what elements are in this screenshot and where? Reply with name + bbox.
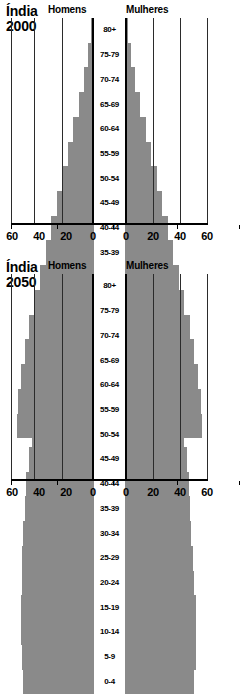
age-label: 65-69 [94,348,125,373]
x-tick-label: 40 [33,230,45,242]
male-bars-2000 [11,18,94,223]
age-label: 75-79 [94,299,125,324]
bar-female-25-29 [125,546,193,571]
bar-row [11,373,94,398]
x-tick-label: 20 [147,230,159,242]
age-label: 45-49 [94,191,125,216]
x-tick-label: 60 [6,230,18,242]
bar-male-15-19 [21,595,94,620]
gridline-male-40 [34,274,35,479]
axis-tick [11,481,12,485]
x-tick-label: 40 [174,230,186,242]
age-label: 80+ [94,274,125,299]
bar-male-0-4 [23,670,94,694]
x-tick-label: 20 [147,486,159,498]
female-half-2050 [125,274,208,479]
age-label: 10-14 [94,620,125,645]
bar-male-55-59 [68,142,94,167]
age-label: 80+ [94,18,125,43]
bar-row [11,43,94,68]
age-label: 0-4 [94,670,125,694]
bar-male-80plus [66,274,94,299]
bar-row [11,348,94,373]
bar-row [11,670,94,694]
bar-row [125,142,208,167]
age-label: 60-64 [94,373,125,398]
male-bars-2050 [11,274,94,479]
bar-row [11,166,94,191]
bar-row [11,447,94,472]
bar-male-30-34 [23,521,94,546]
bar-row [125,299,208,324]
female-series-label: Mulheres [126,4,168,15]
bar-row [125,43,208,68]
x-axis-labels-2000: 60 40 20 0 0 20 40 60 [0,230,219,246]
age-label: 70-74 [94,323,125,348]
bar-female-5-9 [125,645,196,670]
bar-male-65-69 [48,348,94,373]
bar-row [11,521,94,546]
bar-row [125,117,208,142]
bar-row [125,645,208,670]
bar-row [125,323,208,348]
age-label: 5-9 [94,645,125,670]
age-label: 70-74 [94,67,125,92]
bar-male-60-64 [41,373,94,398]
bar-male-55-59 [36,398,94,423]
bar-row [125,670,208,694]
x-axis-2000 [11,223,208,225]
bar-female-60-64 [125,373,178,398]
x-axis-labels-2050: 60 40 20 0 0 20 40 60 [0,486,219,502]
bar-row [11,398,94,423]
bar-female-80plus [125,274,162,299]
female-bars-2000 [125,18,208,223]
gridline-female-60 [207,274,208,479]
x-tick-label: 0 [123,486,129,498]
bar-female-60-64 [125,117,146,142]
bar-female-0-4 [125,670,194,694]
bar-row [11,117,94,142]
x-tick-label: 40 [174,486,186,498]
gridline-male-60 [11,18,12,223]
gridline-female-40 [180,274,181,479]
population-pyramid-2000: Índia 2000 Homens Mulheres [0,0,219,256]
x-tick-label: 0 [123,230,129,242]
bar-row [11,299,94,324]
bar-male-50-54 [62,166,94,191]
male-series-label: Homens [48,260,86,271]
gridline-male-20 [62,18,63,223]
bar-row [125,620,208,645]
bar-row [11,620,94,645]
bar-row [125,373,208,398]
bar-female-30-34 [125,521,191,546]
bar-row [11,645,94,670]
bar-row [125,274,208,299]
age-label: 15-19 [94,595,125,620]
bar-male-20-24 [22,571,94,596]
age-label: 65-69 [94,92,125,117]
bar-row [125,571,208,596]
age-label: 75-79 [94,43,125,68]
axis-tick [57,481,58,485]
bar-row [125,521,208,546]
bar-female-45-49 [125,191,162,216]
bar-row [125,67,208,92]
bar-male-70-74 [54,323,94,348]
bar-row [11,18,94,43]
plot-area-2050: 80+ 75-79 70-74 65-69 60-64 55-59 50-54 … [0,274,219,479]
axis-tick [177,481,178,485]
bar-male-75-79 [59,299,94,324]
age-label: 30-34 [94,521,125,546]
bar-female-65-69 [125,92,140,117]
plot-area-2000: 80+ 75-79 70-74 65-69 60-64 55-59 50-54 … [0,18,219,223]
bar-row [11,422,94,447]
age-label: 50-54 [94,422,125,447]
country-name: Índia [6,259,38,275]
axis-tick [113,225,114,229]
male-half-2050 [11,274,94,479]
gridline-female-20 [153,18,154,223]
female-half-2000 [125,18,208,223]
age-label: 50-54 [94,166,125,191]
x-tick-label: 0 [90,486,96,498]
female-bars-2050 [125,274,208,479]
